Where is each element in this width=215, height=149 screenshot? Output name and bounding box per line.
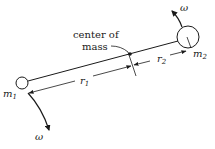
r1-dimension-right (93, 66, 131, 76)
omega-top-arrow-icon (172, 11, 182, 27)
center-of-mass-label-line2: mass (82, 41, 108, 52)
r1-label: r1 (80, 75, 89, 88)
omega-bottom-label: ω (35, 131, 43, 142)
r2-dimension-right (170, 51, 186, 55)
r2-label: r2 (157, 53, 167, 66)
m1-label: m1 (3, 88, 17, 101)
com-leader (111, 46, 128, 52)
r1-dimension-left (29, 81, 75, 93)
omega-bottom-arrow-icon (28, 93, 49, 130)
r2-dimension-left (134, 61, 150, 65)
center-of-mass-label-line1: center of (73, 29, 120, 40)
m2-label: m2 (193, 48, 207, 61)
omega-top-label: ω (180, 2, 188, 13)
mass-2-circle (177, 26, 199, 48)
com-tick-line (128, 52, 136, 76)
two-mass-diagram: center of mass r1 r2 m1 m2 ω ω (0, 0, 215, 149)
mass-1-circle (16, 77, 28, 89)
mass-2-center-tick (187, 37, 191, 48)
